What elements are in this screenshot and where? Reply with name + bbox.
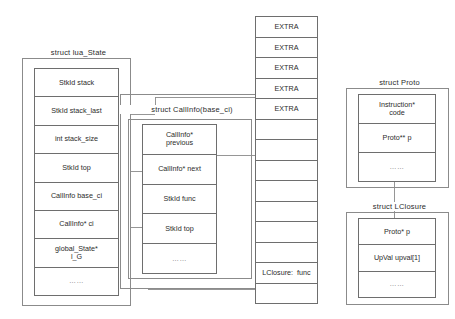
stack-cell [256, 140, 317, 161]
stack-cell: EXTRA [256, 79, 317, 100]
proto-field: Instruction* code [359, 95, 435, 124]
stack-cell: EXTRA [256, 58, 317, 79]
lua-state-field: int stack_size [35, 126, 118, 154]
lua-state-field: global_State* l_G [35, 239, 118, 267]
lua-state-field: StkId top [35, 154, 118, 182]
lclosure-fields: Proto* pUpVal upval[1]…… [358, 218, 436, 298]
stack-cell: EXTRA [256, 38, 317, 59]
lclosure-title: struct LClosure [346, 202, 453, 211]
stack-cell: LClosure: func [256, 263, 317, 284]
lua-state-title: struct lua_State [22, 48, 135, 57]
proto-field: Proto** p [359, 124, 435, 153]
lua-stack-column: EXTRAEXTRAEXTRAEXTRAEXTRALClosure: func [255, 16, 318, 304]
lua-state-field: StkId stack [35, 69, 118, 97]
lclosure-field: Proto* p [359, 219, 435, 245]
lua-state-fields: StkId stackStkId stack_lastint stack_siz… [34, 68, 119, 296]
callinfo-field: StkId func [143, 185, 216, 215]
callinfo-title: struct CallInfo(base_ci) [120, 105, 264, 114]
lclosure-field: …… [359, 272, 435, 297]
proto-title: struct Proto [346, 78, 453, 87]
callinfo-field: …… [143, 244, 216, 273]
stack-cell: EXTRA [256, 99, 317, 120]
callinfo-field: CallInfo* next [143, 155, 216, 185]
stack-cell [256, 202, 317, 223]
callinfo-field: CallInfo* previous [143, 125, 216, 155]
stack-cell [256, 222, 317, 243]
stack-cell [256, 120, 317, 141]
lua-state-field: CallInfo* ci [35, 211, 118, 239]
callinfo-field: StkId top [143, 214, 216, 244]
proto-fields: Instruction* codeProto** p…… [358, 94, 436, 182]
stack-cell [256, 243, 317, 264]
lua-state-field: …… [35, 268, 118, 295]
diagram-canvas: struct lua_State StkId stackStkId stack_… [0, 0, 455, 319]
stack-cell: EXTRA [256, 17, 317, 38]
lua-state-field: StkId stack_last [35, 97, 118, 125]
callinfo-fields: CallInfo* previousCallInfo* nextStkId fu… [142, 124, 217, 274]
proto-field: …… [359, 153, 435, 181]
stack-cell [256, 181, 317, 202]
lclosure-field: UpVal upval[1] [359, 245, 435, 271]
stack-cell [256, 161, 317, 182]
lua-state-field: CallInfo base_ci [35, 183, 118, 211]
stack-cell [256, 284, 317, 304]
